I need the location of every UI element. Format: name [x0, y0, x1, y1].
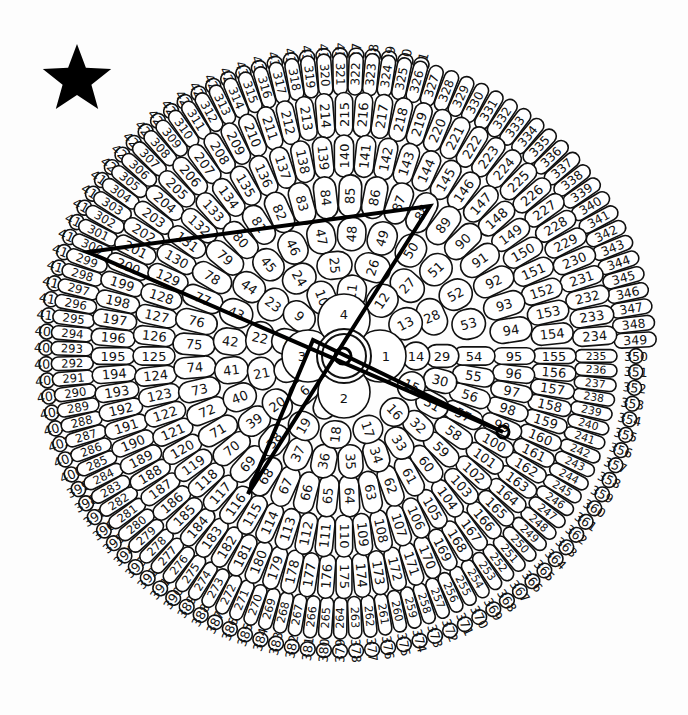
petal-number: 214	[317, 103, 334, 129]
petal: 41	[213, 355, 250, 385]
petal: 323	[362, 53, 380, 96]
petal-number: 264	[334, 607, 347, 629]
petal-number: 54	[466, 349, 483, 364]
petal-number: 319	[301, 65, 318, 89]
petal: 96	[492, 363, 535, 384]
petal-number: 29	[434, 349, 451, 364]
petal-number: 294	[61, 326, 84, 342]
petal-number: 139	[314, 145, 332, 171]
petal-number: 349	[623, 332, 648, 348]
petal-number: 4	[340, 307, 348, 322]
petal: 322	[348, 53, 364, 96]
petal: 265	[318, 596, 334, 639]
petal-number: 265	[319, 607, 333, 629]
petal-number: 95	[506, 349, 523, 364]
petal-number: 86	[366, 188, 384, 207]
petal: 352	[622, 379, 647, 397]
petal-number: 291	[62, 370, 85, 386]
petal-number: 175	[337, 564, 352, 589]
petal: 141	[353, 135, 377, 179]
petal: 380	[316, 638, 333, 663]
petal: 351	[623, 364, 648, 380]
petal-number: 352	[622, 379, 647, 397]
petal-number: 262	[362, 605, 377, 628]
petal: 234	[572, 326, 617, 348]
petal: 35	[337, 444, 363, 479]
petal: 156	[531, 363, 576, 382]
petal: 195	[91, 348, 135, 365]
petal: 377	[363, 637, 380, 662]
petal-number: 124	[143, 367, 169, 385]
petal-number: 2	[340, 391, 348, 406]
petal-number: 323	[363, 63, 379, 87]
petal-number: 41	[222, 362, 240, 379]
petal-number: 381	[299, 636, 317, 662]
petal: 42	[212, 326, 249, 357]
petal-number: 1	[382, 349, 390, 364]
petal-number: 321	[333, 63, 347, 86]
petal: 126	[133, 325, 177, 348]
petal: 140	[334, 135, 353, 177]
petal: 155	[532, 348, 576, 363]
petal-number: 126	[141, 327, 167, 345]
petal-number: 25	[326, 256, 343, 274]
petal: 95	[493, 348, 535, 364]
petal-number: 155	[542, 349, 567, 364]
petal-number: 378	[348, 638, 364, 663]
petal-number: 18	[327, 425, 344, 443]
petal-number: 320	[317, 63, 333, 87]
petal: 378	[348, 638, 364, 663]
petal-number: 235	[586, 350, 607, 363]
petal-number: 141	[356, 143, 374, 169]
petal-number: 96	[505, 365, 523, 382]
petal: 376	[379, 634, 397, 660]
petal: 64	[339, 474, 360, 517]
petal-number: 234	[582, 328, 608, 345]
petal: 125	[133, 347, 175, 365]
petal: 176	[317, 554, 336, 599]
petal: 216	[353, 92, 374, 137]
petal-number: 215	[337, 102, 352, 127]
petal-number: 75	[185, 336, 203, 352]
petal: 235	[575, 350, 617, 363]
petal: 379	[332, 639, 347, 663]
petal-number: 292	[61, 356, 84, 371]
petal-number: 266	[304, 605, 320, 628]
petal-number: 377	[363, 637, 380, 662]
petal: 292	[51, 356, 93, 371]
petal-number: 174	[353, 562, 370, 588]
petal-number: 65	[319, 487, 336, 505]
petal: 350	[624, 349, 648, 364]
star-icon	[43, 44, 111, 109]
petal-number: 156	[541, 364, 567, 381]
petal: 75	[172, 332, 216, 356]
petal-number: 380	[316, 638, 333, 663]
petal: 293	[51, 341, 93, 356]
petal-number: 63	[361, 483, 379, 502]
petal-number: 350	[624, 349, 648, 364]
petal-number: 48	[344, 225, 360, 242]
petal-number: 154	[539, 325, 565, 343]
petal: 48	[337, 216, 367, 251]
petal-number: 176	[318, 563, 335, 589]
petal-number: 348	[621, 315, 646, 333]
petal: 381	[299, 636, 317, 662]
petal: 294	[51, 325, 94, 342]
petal: 196	[91, 328, 136, 348]
petal-number: 322	[348, 62, 363, 86]
petal: 349	[614, 331, 657, 348]
petal-number: 35	[343, 453, 359, 470]
petal-number: 42	[221, 333, 239, 350]
petal: 175	[336, 554, 352, 598]
petal-number: 85	[342, 187, 358, 204]
petal-number: 74	[186, 359, 204, 375]
petal: 74	[173, 355, 216, 379]
petal-number: 376	[379, 634, 397, 660]
petal: 321	[333, 53, 348, 95]
petal-number: 196	[100, 329, 126, 346]
petal-number: 293	[61, 341, 84, 356]
petal-number: 216	[355, 102, 372, 128]
petal-number: 84	[317, 189, 334, 207]
petal-number: 263	[348, 607, 362, 629]
petal: 85	[338, 174, 362, 217]
